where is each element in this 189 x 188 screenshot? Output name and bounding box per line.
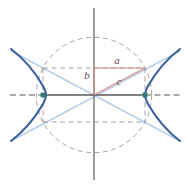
label-a: a (114, 54, 120, 66)
label-c: c (117, 75, 122, 87)
label-group: a b c (84, 54, 121, 87)
label-b: b (84, 69, 90, 81)
hyperbola-figure: a b c (0, 0, 189, 188)
hyperbola-diagram-canvas: a b c (0, 0, 189, 188)
focus-left-point (41, 93, 46, 98)
focus-right-point (143, 93, 148, 98)
